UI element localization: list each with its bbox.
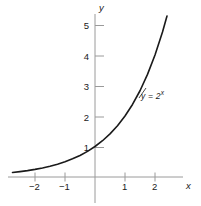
y-tick-label-5: 5: [79, 21, 89, 31]
x-tick-label-1: 1: [122, 182, 127, 192]
plot-area: [0, 0, 201, 206]
y-axis-label: y: [99, 3, 104, 13]
x-tick-label-2: 2: [152, 182, 157, 192]
y-tick-label-3: 3: [79, 82, 89, 92]
x-axis-label: x: [186, 181, 191, 191]
curve-equation-label: y = 2x: [141, 92, 164, 101]
y-tick-label-1: 1: [79, 143, 89, 153]
y-tick-label-4: 4: [79, 52, 89, 62]
x-tick-label--2: −2: [29, 182, 40, 192]
y-tick-label-2: 2: [79, 113, 89, 123]
y-axis-ticks: [95, 26, 104, 148]
curve-equation-exponent: x: [161, 89, 164, 96]
x-tick-label--1: −1: [59, 182, 70, 192]
curve-equation-base: y = 2: [141, 91, 161, 101]
exponential-function-figure: −2 −1 1 2 5 4 3 2 1 y x y = 2x: [0, 0, 201, 206]
